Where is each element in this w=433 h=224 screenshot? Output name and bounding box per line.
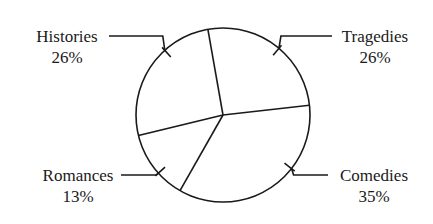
pie-slice-boundary-tragedies [208,29,223,115]
leader-line-comedies [292,169,328,175]
slice-percent-tragedies: 26% [359,48,390,67]
slice-label-romances: Romances [43,166,114,185]
leader-line-tragedies [279,36,332,48]
pie-slice-boundary-comedies [223,105,309,115]
pie-slice-boundary-histories [138,115,223,135]
leader-line-romances [121,173,158,175]
slice-percent-comedies: 35% [358,187,389,206]
pie-chart-svg: Tragedies26%Comedies35%Romances13%Histor… [0,0,433,224]
slice-percent-romances: 13% [62,187,93,206]
slice-label-tragedies: Tragedies [342,27,408,46]
leader-line-histories [109,36,165,50]
pie-chart: Tragedies26%Comedies35%Romances13%Histor… [0,0,433,224]
slice-label-histories: Histories [36,27,97,46]
slice-percent-histories: 26% [51,48,82,67]
pie-slice-boundary-romances [180,115,223,191]
slice-label-comedies: Comedies [340,166,408,185]
